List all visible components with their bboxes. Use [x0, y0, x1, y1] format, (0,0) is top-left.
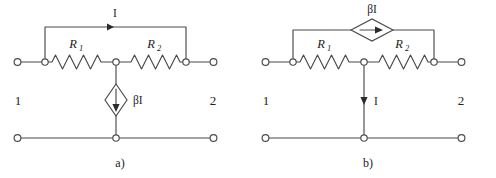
terminal-top-left-a[interactable] — [14, 59, 21, 66]
circuit-panel-b: βI R 1 R 2 I 1 2 b) — [248, 0, 496, 178]
terminal-bottom-right-b[interactable] — [458, 135, 465, 142]
port-label-right-a: 2 — [210, 93, 217, 108]
junction-right-b — [431, 59, 437, 65]
resistor-r1-subscript-a: 1 — [79, 43, 83, 53]
resistor-r2-label-b: R — [394, 37, 403, 51]
resistor-r1-label-b: R — [316, 37, 325, 51]
junction-right-a — [183, 59, 189, 65]
junction-center-bottom-b — [361, 135, 367, 141]
terminal-top-right-a[interactable] — [210, 59, 217, 66]
resistor-r1-b — [293, 55, 364, 69]
junction-left-b — [290, 59, 296, 65]
circuit-diagram-a: I R 1 R 2 βI 1 2 a) — [0, 0, 248, 178]
resistor-r2-a — [116, 55, 186, 69]
resistor-r2-label-a: R — [146, 37, 155, 51]
terminal-bottom-right-a[interactable] — [210, 135, 217, 142]
circuit-panel-a: I R 1 R 2 βI 1 2 a) — [0, 0, 248, 178]
resistor-r2-subscript-b: 2 — [405, 43, 410, 53]
junction-left-a — [42, 59, 48, 65]
current-arrow-b — [360, 97, 367, 105]
junction-center-top-b — [361, 59, 367, 65]
resistor-r1-subscript-b: 1 — [327, 43, 331, 53]
current-label-b: I — [374, 95, 378, 107]
resistor-r1-a — [45, 55, 116, 69]
resistor-r2-subscript-a: 2 — [157, 43, 162, 53]
source-label-a: βI — [133, 94, 143, 107]
junction-center-bottom-a — [113, 135, 119, 141]
top-bypass-wire-a — [45, 27, 186, 62]
current-label-a: I — [113, 7, 117, 19]
terminal-bottom-left-b[interactable] — [262, 135, 269, 142]
resistor-r2-b — [364, 55, 434, 69]
terminal-top-right-b[interactable] — [458, 59, 465, 66]
panel-caption-b: b) — [363, 156, 373, 170]
port-label-right-b: 2 — [458, 93, 465, 108]
terminal-bottom-left-a[interactable] — [14, 135, 21, 142]
circuit-figure: I R 1 R 2 βI 1 2 a) — [0, 0, 496, 178]
junction-center-top-a — [113, 59, 119, 65]
circuit-diagram-b: βI R 1 R 2 I 1 2 b) — [248, 0, 496, 178]
port-label-left-a: 1 — [15, 93, 22, 108]
port-label-left-b: 1 — [263, 93, 270, 108]
source-label-b: βI — [367, 3, 377, 16]
current-arrow-a — [107, 24, 114, 31]
terminal-top-left-b[interactable] — [262, 59, 269, 66]
panel-caption-a: a) — [115, 156, 124, 170]
resistor-r1-label-a: R — [68, 37, 77, 51]
